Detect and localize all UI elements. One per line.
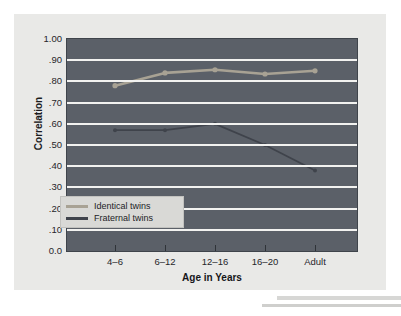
legend-item-fraternal-twins: Fraternal twins — [66, 212, 178, 224]
data-point — [312, 68, 317, 73]
legend-swatch-fraternal-twins — [66, 217, 88, 220]
y-axis-tick-label: .30 — [18, 181, 62, 192]
gridline — [67, 144, 357, 146]
gridline — [67, 229, 357, 231]
x-axis-tick-label: 6–12 — [138, 256, 192, 267]
x-axis-tick-label: Adult — [288, 256, 342, 267]
gridline — [67, 80, 357, 82]
x-axis-title: Age in Years — [66, 272, 358, 283]
x-axis-tick-label: 16–20 — [238, 256, 292, 267]
y-axis-tick-label: 1.00 — [18, 33, 62, 44]
x-axis-tick — [265, 245, 266, 251]
legend-label-identical-twins: Identical twins — [94, 201, 151, 211]
gridline — [67, 249, 357, 251]
data-point — [113, 128, 117, 132]
legend-item-identical-twins: Identical twins — [66, 200, 178, 212]
x-axis-tick-label: 12–16 — [188, 256, 242, 267]
chart-legend: Identical twins Fraternal twins — [60, 196, 184, 228]
data-point — [163, 128, 167, 132]
y-axis-tick-label: .90 — [18, 54, 62, 65]
series-line — [115, 124, 315, 171]
gridline — [67, 186, 357, 188]
data-point — [112, 83, 117, 88]
data-point — [262, 71, 267, 76]
gridline — [67, 39, 357, 41]
scan-artifact-bar-upper — [277, 296, 401, 300]
chart-figure: 1.00.90.80.70.60.50.40.30.20.100.0 Corre… — [0, 0, 401, 316]
data-point — [313, 168, 317, 172]
x-axis-tick — [215, 245, 216, 251]
gridline — [67, 59, 357, 61]
y-axis-tick-label: .20 — [18, 203, 62, 214]
y-axis-tick-label: 0.0 — [18, 245, 62, 256]
gridline — [67, 165, 357, 167]
gridline — [67, 123, 357, 125]
x-axis-tick — [115, 245, 116, 251]
x-axis-tick — [165, 245, 166, 251]
scan-artifact-bar-lower — [262, 304, 401, 307]
legend-label-fraternal-twins: Fraternal twins — [94, 213, 153, 223]
y-axis-tick-label: .10 — [18, 224, 62, 235]
y-axis-title: Correlation — [33, 79, 44, 169]
legend-swatch-identical-twins — [66, 205, 88, 208]
x-axis-tick — [315, 245, 316, 251]
data-point — [162, 70, 167, 75]
data-point — [212, 67, 217, 72]
gridline — [67, 102, 357, 104]
x-axis-tick-label: 4–6 — [88, 256, 142, 267]
